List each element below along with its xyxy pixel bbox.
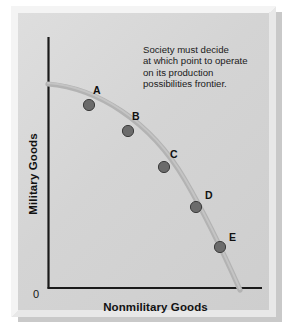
origin-label: 0: [33, 288, 39, 300]
data-point-a: [83, 99, 94, 110]
data-point-b: [122, 125, 133, 136]
callout-line-4: possibilities frontier.: [143, 78, 283, 89]
y-axis-label: Military Goods: [27, 119, 39, 229]
figure-screenshot: A B C D E Military Goods Nonmilitary Goo…: [0, 0, 293, 336]
callout-text: Society must decide at which point to op…: [143, 44, 283, 90]
data-point-label-d: D: [205, 189, 213, 201]
data-point-label-e: E: [229, 231, 236, 243]
data-point-label-c: C: [170, 148, 178, 160]
ppf-curve: [48, 84, 240, 290]
data-point-label-a: A: [93, 84, 101, 96]
data-point-e: [214, 241, 225, 252]
x-axis-label: Nonmilitary Goods: [48, 301, 263, 313]
data-point-d: [190, 201, 201, 212]
callout-line-3: on its production: [143, 67, 283, 78]
ppf-curve-highlight: [48, 83, 240, 289]
data-point-c: [158, 161, 169, 172]
callout-line-2: at which point to operate: [143, 55, 283, 66]
callout-line-1: Society must decide: [143, 44, 283, 55]
data-point-label-b: B: [132, 110, 140, 122]
